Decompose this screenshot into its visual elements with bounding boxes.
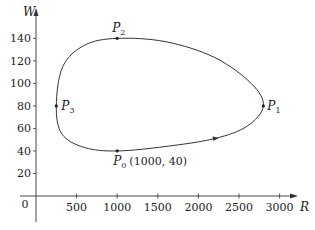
y-tick-label: 80 xyxy=(17,100,31,113)
x-tick-label: 1500 xyxy=(144,201,172,214)
point-label: P1 xyxy=(266,99,280,115)
x-tick-label: 2000 xyxy=(184,201,212,214)
point-marker xyxy=(116,37,119,40)
y-tick-label: 140 xyxy=(10,32,31,45)
point-label: P2 xyxy=(111,21,125,37)
trajectory-curve xyxy=(56,38,263,151)
x-tick-label: 3000 xyxy=(266,201,294,214)
point-p0: P0(1000, 40) xyxy=(112,149,187,170)
x-tick-label: 2500 xyxy=(225,201,253,214)
point-p1: P1 xyxy=(262,99,281,115)
point-marker xyxy=(262,104,265,107)
x-tick-label: 1000 xyxy=(103,201,131,214)
point-marker xyxy=(116,149,119,152)
phase-plane-chart: RW05001000150020002500300020406080100120… xyxy=(0,0,315,230)
origin-label: 0 xyxy=(22,198,29,211)
trajectory-path xyxy=(56,38,263,151)
x-axis-label: R xyxy=(299,200,309,214)
x-tick-label: 500 xyxy=(66,201,87,214)
direction-arrow-icon xyxy=(213,136,219,141)
y-tick-label: 60 xyxy=(17,122,31,135)
y-axis-label: W xyxy=(23,5,37,19)
x-axis-arrow-icon xyxy=(290,194,298,199)
point-p3: P3 xyxy=(55,99,75,115)
y-tick-label: 40 xyxy=(17,145,31,158)
y-tick-label: 100 xyxy=(10,77,31,90)
point-label: P0(1000, 40) xyxy=(112,154,187,170)
point-label: P3 xyxy=(60,99,74,115)
y-tick-label: 120 xyxy=(10,55,31,68)
axes: RW05001000150020002500300020406080100120… xyxy=(10,5,309,222)
point-marker xyxy=(55,104,58,107)
point-p2: P2 xyxy=(111,21,125,40)
y-tick-label: 20 xyxy=(17,167,31,180)
